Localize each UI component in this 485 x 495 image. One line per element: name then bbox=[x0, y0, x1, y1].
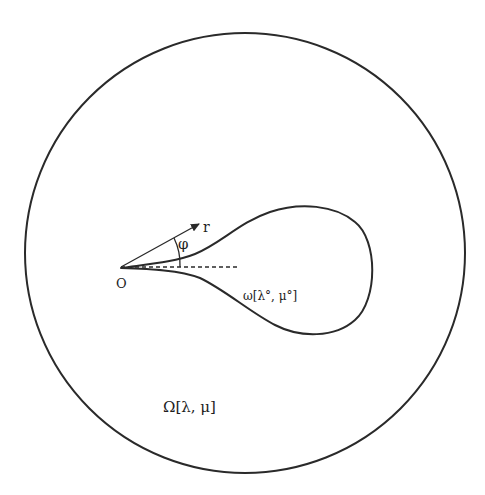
outer-domain-circle bbox=[25, 33, 465, 473]
teardrop-region-boundary bbox=[121, 206, 372, 334]
angle-label: φ bbox=[178, 235, 189, 253]
radius-label: r bbox=[203, 219, 210, 235]
domain-label: Ω[λ, μ] bbox=[163, 398, 216, 416]
diagram-canvas: r φ O ω[λ°, μ°] Ω[λ, μ] bbox=[0, 0, 485, 495]
origin-label: O bbox=[116, 276, 127, 291]
region-label: ω[λ°, μ°] bbox=[243, 289, 297, 303]
